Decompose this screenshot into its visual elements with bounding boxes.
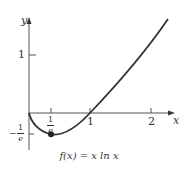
frac-denominator: e [18,135,23,143]
y-axis-arrow-icon [27,17,32,24]
plot-area [0,0,182,169]
x-tick-label-2: 2 [148,116,155,127]
function-caption: f(x) = x ln x [44,150,134,161]
frac-denominator: e [48,127,53,135]
x-axis-label: x [173,115,179,126]
frac-numerator: 1 [18,124,23,132]
y-tick-label-minus-sign: − [9,129,17,138]
y-axis-label: y [21,15,27,26]
frac-numerator: 1 [48,116,53,124]
y-tick-label-1: 1 [18,49,25,60]
x-tick-label-inv-e: 1 e [47,116,54,135]
x-tick-label-1: 1 [87,116,94,127]
y-tick-label-neg-inv-e: 1 e [17,124,24,143]
